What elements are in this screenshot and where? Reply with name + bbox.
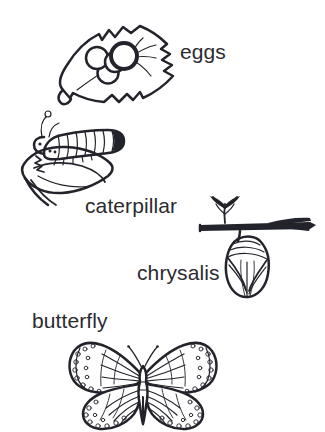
stage-label-chrysalis: chrysalis [137,262,220,283]
egg-1 [111,43,137,69]
butterfly-illustration [58,336,228,432]
eggs-illustration [55,18,190,108]
caterpillar-illustration [18,106,143,206]
stage-label-eggs: eggs [180,41,226,62]
monarch-butterfly-drawing [58,336,228,432]
stage-label-caterpillar: caterpillar [85,195,177,216]
stage-label-butterfly: butterfly [32,310,108,331]
caterpillar-leaf-drawing [18,106,143,206]
eggs-leaf-drawing [55,18,190,108]
chrysalis-twig-drawing [198,192,325,307]
chrysalis-illustration [198,192,325,307]
